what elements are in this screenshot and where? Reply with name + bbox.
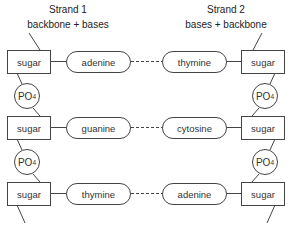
backbone-line-bottom-right	[267, 205, 275, 223]
backbone-line	[252, 174, 259, 182]
strand2-base-1: thymine	[162, 51, 227, 73]
strand2-phosphate-1: PO4	[252, 83, 278, 109]
strand2-phosphate-2: PO4	[252, 149, 278, 175]
backbone-line	[33, 174, 40, 182]
strand1-subtitle: backbone + bases	[8, 18, 128, 31]
strand2-sugar-3: sugar	[241, 182, 285, 206]
backbone-line-bottom-left	[17, 205, 25, 223]
strand1-base-2: guanine	[66, 117, 131, 139]
backbone-line	[252, 108, 259, 116]
strand2-sugar-2: sugar	[241, 116, 285, 140]
strand1-phosphate-1: PO4	[14, 83, 40, 109]
backbone-line-top-left	[29, 33, 40, 50]
strand1-sugar-3: sugar	[7, 182, 51, 206]
strand1-header: Strand 1 backbone + bases	[8, 3, 128, 31]
strand2-subtitle: bases + backbone	[166, 18, 286, 31]
backbone-line-top-right	[253, 33, 262, 50]
strand2-header: Strand 2 bases + backbone	[166, 3, 286, 31]
backbone-line	[17, 139, 22, 150]
backbone-line	[270, 139, 275, 150]
strand1-phosphate-2: PO4	[14, 149, 40, 175]
strand2-base-3: adenine	[162, 183, 227, 205]
strand1-sugar-2: sugar	[7, 116, 51, 140]
backbone-line	[270, 73, 275, 84]
backbone-line	[33, 108, 40, 116]
strand2-title: Strand 2	[166, 3, 286, 16]
strand2-sugar-1: sugar	[241, 50, 285, 74]
backbone-line	[17, 73, 22, 84]
strand1-sugar-1: sugar	[7, 50, 51, 74]
strand1-title: Strand 1	[8, 3, 128, 16]
strand1-base-3: thymine	[66, 183, 131, 205]
strand2-base-2: cytosine	[162, 117, 227, 139]
strand1-base-1: adenine	[66, 51, 131, 73]
